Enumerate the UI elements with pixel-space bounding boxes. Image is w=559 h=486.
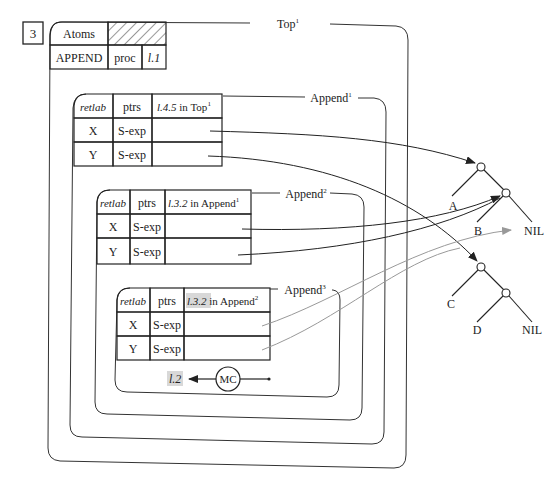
svg-text:S-exp: S-exp: [118, 148, 146, 162]
tree-2: C D NIL: [447, 263, 542, 337]
svg-text:retlab: retlab: [100, 197, 126, 209]
svg-text:S-exp: S-exp: [153, 342, 181, 356]
svg-text:C: C: [447, 297, 455, 311]
svg-text:retlab: retlab: [120, 295, 146, 307]
pointers: [208, 131, 511, 350]
environment-diagram: 3 Top1 Atoms APPEND proc l.1 Append1: [0, 0, 559, 486]
svg-text:S-exp: S-exp: [153, 318, 181, 332]
svg-text:l.4.5 in Top1: l.4.5 in Top1: [157, 100, 211, 113]
svg-text:MC: MC: [219, 373, 236, 385]
top-frame-title: Top1: [277, 17, 300, 31]
svg-text:S-exp: S-exp: [118, 124, 146, 138]
svg-text:D: D: [473, 323, 482, 337]
svg-text:l.2: l.2: [169, 372, 181, 386]
append3-frame: Append3 retlab ptrs l.3.2 in Append2 X S…: [115, 283, 340, 397]
svg-text:Y: Y: [129, 342, 138, 356]
svg-text:Y: Y: [89, 148, 98, 162]
svg-text:Y: Y: [109, 245, 118, 259]
svg-text:X: X: [129, 318, 138, 332]
atoms-table: Atoms APPEND proc l.1: [50, 22, 166, 69]
svg-text:Append3: Append3: [284, 283, 326, 297]
svg-text:NIL: NIL: [522, 323, 542, 337]
svg-text:S-exp: S-exp: [133, 220, 161, 234]
svg-text:proc: proc: [114, 51, 135, 65]
top-environment-frame: Top1: [48, 17, 408, 468]
svg-text:APPEND: APPEND: [56, 51, 103, 65]
svg-text:l.1: l.1: [148, 51, 160, 65]
svg-text:ptrs: ptrs: [158, 294, 176, 308]
svg-text:X: X: [89, 124, 98, 138]
svg-text:S-exp: S-exp: [133, 245, 161, 259]
svg-text:NIL: NIL: [524, 224, 544, 238]
svg-text:retlab: retlab: [80, 101, 106, 113]
svg-text:l.3.2 in Append1: l.3.2 in Append1: [168, 196, 240, 209]
machine-control: l.2 MC: [167, 367, 271, 391]
svg-text:Atoms: Atoms: [63, 27, 95, 41]
svg-text:ptrs: ptrs: [138, 196, 156, 210]
svg-text:3: 3: [30, 26, 37, 41]
svg-text:Append2: Append2: [285, 187, 327, 201]
tree-1: A B NIL: [449, 163, 544, 238]
figure-number: 3: [23, 22, 43, 44]
svg-text:Append1: Append1: [310, 91, 352, 105]
svg-text:X: X: [109, 220, 118, 234]
svg-text:ptrs: ptrs: [123, 100, 141, 114]
svg-text:l.3.2 in Append2: l.3.2 in Append2: [187, 294, 259, 307]
